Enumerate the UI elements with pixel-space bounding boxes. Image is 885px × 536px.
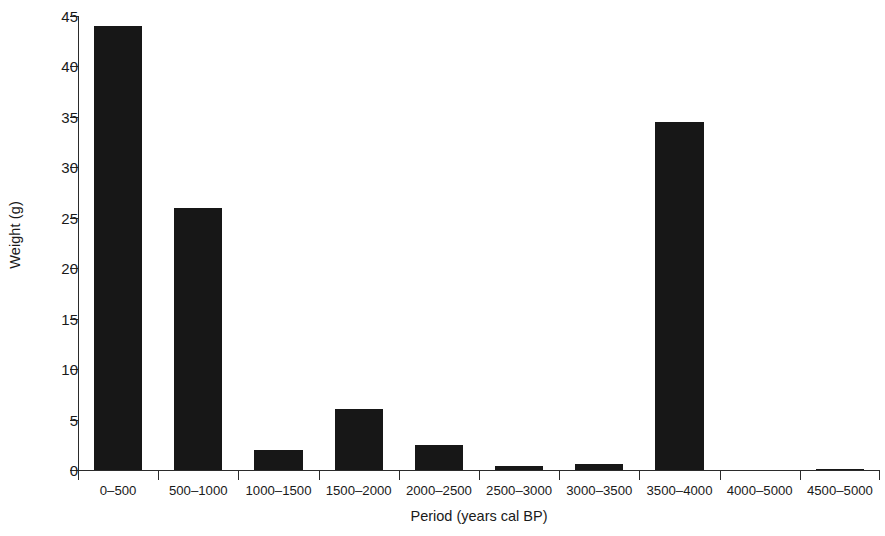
x-axis-tick (879, 471, 880, 480)
x-axis-tick (78, 471, 79, 480)
x-axis-tick-label: 2500–3000 (486, 484, 552, 497)
x-axis-title: Period (years cal BP) (78, 508, 880, 524)
x-axis-tick-label: 4000–5000 (727, 484, 793, 497)
x-axis-tick-label: 3000–3500 (566, 484, 632, 497)
x-axis-tick-label: 1500–2000 (326, 484, 392, 497)
bar (94, 26, 142, 470)
bar (254, 450, 302, 470)
x-axis-tick (399, 471, 400, 480)
bar (655, 122, 703, 470)
plot-area (78, 16, 880, 470)
x-axis-tick (559, 471, 560, 480)
y-axis-tick-label: 0 (16, 463, 78, 478)
x-axis-tick (319, 471, 320, 480)
y-axis-tick-label: 35 (16, 109, 78, 124)
y-axis-tick-label: 5 (16, 412, 78, 427)
bar-chart: Weight (g) 051015202530354045 0–500500–1… (0, 0, 885, 536)
bar (816, 469, 864, 470)
x-axis-tick-label: 0–500 (100, 484, 137, 497)
y-axis-tick-label: 45 (16, 9, 78, 24)
x-axis-tick-label: 500–1000 (169, 484, 228, 497)
bar (415, 445, 463, 470)
x-axis-tick (720, 471, 721, 480)
x-axis-tick (238, 471, 239, 480)
y-axis-tick-label: 15 (16, 311, 78, 326)
y-axis-tick-label: 30 (16, 160, 78, 175)
y-axis-tick-label: 20 (16, 261, 78, 276)
bar (174, 208, 222, 470)
bar (335, 409, 383, 470)
x-axis-tick (158, 471, 159, 480)
x-axis-tick-label: 4500–5000 (807, 484, 873, 497)
x-axis-tick (800, 471, 801, 480)
y-axis-tick-label: 40 (16, 59, 78, 74)
x-axis-tick-label: 1000–1500 (245, 484, 311, 497)
x-axis-tick-label: 3500–4000 (646, 484, 712, 497)
y-axis-tick-label: 25 (16, 210, 78, 225)
x-axis-tick (639, 471, 640, 480)
x-axis-tick-label: 2000–2500 (406, 484, 472, 497)
bar (495, 466, 543, 470)
y-axis-tick-label: 10 (16, 362, 78, 377)
x-axis-tick (479, 471, 480, 480)
bar (575, 464, 623, 470)
